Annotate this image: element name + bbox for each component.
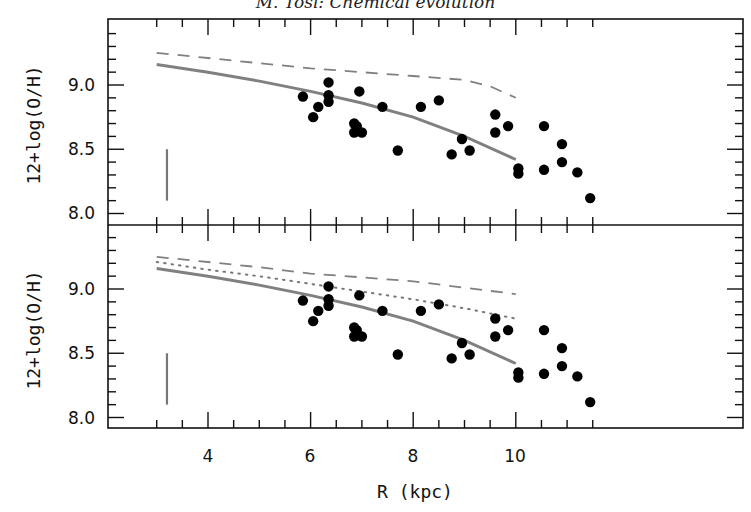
data-point — [393, 145, 403, 155]
data-point — [446, 353, 456, 363]
x-tick-label: 4 — [203, 446, 214, 466]
data-point — [323, 281, 333, 291]
data-point — [557, 343, 567, 353]
frame-border — [108, 19, 743, 428]
data-point — [557, 157, 567, 167]
data-point — [503, 121, 513, 131]
data-point — [313, 306, 323, 316]
data-point — [298, 91, 308, 101]
y-axis-label-upper: 12+log(O/H) — [23, 65, 44, 184]
data-point — [539, 325, 549, 335]
upper-panel — [157, 53, 596, 203]
model-curve-dashed — [157, 53, 516, 98]
data-point — [539, 369, 549, 379]
data-point — [572, 371, 582, 381]
data-point — [377, 306, 387, 316]
data-point — [354, 290, 364, 300]
y-tick-label: 8.5 — [68, 139, 95, 159]
data-point — [464, 349, 474, 359]
data-point — [446, 149, 456, 159]
data-point — [313, 102, 323, 112]
x-axis: 4 6 8 10 R (kpc) — [203, 446, 526, 502]
y-axis-upper: 9.0 8.5 8.0 12+log(O/H) — [23, 65, 95, 223]
data-point — [457, 134, 467, 144]
data-point — [308, 316, 318, 326]
model-curve-solid — [157, 64, 516, 159]
data-point — [323, 77, 333, 87]
data-point — [490, 109, 500, 119]
data-point — [572, 167, 582, 177]
data-point — [323, 301, 333, 311]
data-point — [585, 193, 595, 203]
x-tick-label: 8 — [408, 446, 419, 466]
y-axis-lower: 9.0 8.5 8.0 12+log(O/H) — [23, 270, 95, 428]
model-curve-dotted — [157, 262, 516, 319]
data-point — [434, 95, 444, 105]
data-point — [377, 102, 387, 112]
data-point — [513, 168, 523, 178]
model-curve-solid — [157, 268, 516, 363]
data-point — [298, 295, 308, 305]
data-point — [539, 121, 549, 131]
data-point — [490, 127, 500, 137]
x-tick-label: 10 — [504, 446, 526, 466]
data-point — [490, 313, 500, 323]
data-point — [503, 325, 513, 335]
data-point — [464, 145, 474, 155]
data-point — [513, 372, 523, 382]
lower-panel — [157, 257, 596, 407]
y-tick-label: 8.0 — [68, 408, 95, 428]
data-point — [308, 112, 318, 122]
data-point — [490, 331, 500, 341]
data-point — [434, 299, 444, 309]
y-tick-label: 9.0 — [68, 75, 95, 95]
abundance-gradient-chart: 4 6 8 10 R (kpc) 9.0 8.5 8.0 12+log(O/H)… — [0, 0, 751, 512]
data-point — [357, 127, 367, 137]
data-point — [416, 306, 426, 316]
data-point — [557, 139, 567, 149]
data-point — [323, 97, 333, 107]
data-point — [416, 102, 426, 112]
y-tick-label: 9.0 — [68, 279, 95, 299]
data-point — [393, 349, 403, 359]
x-tick-label: 6 — [305, 446, 316, 466]
data-point — [357, 331, 367, 341]
y-tick-label: 8.5 — [68, 343, 95, 363]
y-tick-label: 8.0 — [68, 203, 95, 223]
x-axis-label: R (kpc) — [377, 481, 453, 502]
plot-frame — [108, 19, 743, 428]
data-point — [585, 397, 595, 407]
data-point — [354, 86, 364, 96]
data-point — [539, 165, 549, 175]
y-axis-label-lower: 12+log(O/H) — [23, 270, 44, 389]
data-point — [557, 361, 567, 371]
data-point — [457, 338, 467, 348]
